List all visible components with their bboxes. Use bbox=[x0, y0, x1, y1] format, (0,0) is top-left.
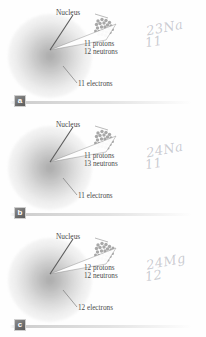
nucleon-counts-label: 12 protons 12 neutrons bbox=[84, 264, 118, 280]
neutrons-label: 12 neutrons bbox=[84, 272, 118, 280]
nucleon-counts-label: 11 protons 12 neutrons bbox=[84, 40, 118, 56]
protons-label: 11 protons bbox=[84, 40, 118, 48]
nucleus-label: Nucleus bbox=[56, 233, 80, 241]
nucleus-cluster bbox=[92, 16, 116, 38]
protons-label: 12 protons bbox=[84, 264, 118, 272]
figure-root: Nucleus 11 protons 12 neutrons 11 electr… bbox=[0, 0, 206, 337]
nucleon-counts-label: 11 protons 13 neutrons bbox=[84, 152, 118, 168]
handwritten-atomic-number-b: 11 bbox=[144, 155, 163, 173]
atom-panel-b: Nucleus 11 protons 13 neutrons 11 electr… bbox=[0, 112, 206, 224]
handwritten-atomic-number-a: 11 bbox=[144, 33, 163, 51]
nucleus-label: Nucleus bbox=[56, 121, 80, 129]
panel-divider-rule bbox=[10, 101, 192, 104]
panel-marker-a: a bbox=[14, 95, 26, 107]
electrons-label: 11 electrons bbox=[78, 192, 113, 200]
nucleus-particles-icon bbox=[92, 16, 116, 38]
nucleus-cluster bbox=[92, 240, 116, 262]
nucleus-particles-icon bbox=[92, 128, 116, 150]
panel-divider-rule bbox=[10, 213, 192, 216]
atom-panel-c: Nucleus 12 protons 12 neutrons 12 electr… bbox=[0, 224, 206, 336]
handwritten-atomic-number-c: 12 bbox=[144, 267, 163, 285]
panel-divider-rule bbox=[10, 325, 192, 328]
neutrons-label: 12 neutrons bbox=[84, 48, 118, 56]
panel-marker-c: c bbox=[14, 319, 26, 331]
protons-label: 11 protons bbox=[84, 152, 118, 160]
neutrons-label: 13 neutrons bbox=[84, 160, 118, 168]
electrons-label: 12 electrons bbox=[78, 304, 113, 312]
nucleus-cluster bbox=[92, 128, 116, 150]
panel-marker-b: b bbox=[14, 207, 26, 219]
electrons-label: 11 electrons bbox=[78, 80, 113, 88]
nucleus-label: Nucleus bbox=[56, 9, 80, 17]
nucleus-particles-icon bbox=[92, 240, 116, 262]
